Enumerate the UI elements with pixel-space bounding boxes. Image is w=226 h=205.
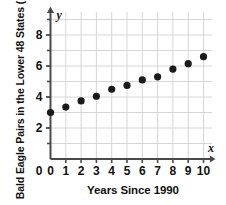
y-axis-arrowhead <box>47 7 54 14</box>
data-point <box>93 93 100 100</box>
data-point <box>62 103 69 110</box>
x-tick-label: 0 <box>47 164 54 178</box>
data-point <box>200 53 207 60</box>
data-point <box>154 73 161 80</box>
data-point <box>47 109 54 116</box>
x-tick-label: 2 <box>78 164 85 178</box>
x-tick-label: 1 <box>62 164 69 178</box>
x-tick-label: 3 <box>93 164 100 178</box>
data-point <box>185 60 192 67</box>
y-tick-label-origin: 0 <box>36 164 43 178</box>
data-point <box>123 82 130 89</box>
data-point <box>169 66 176 73</box>
x-axis-title: Years Since 1990 <box>40 184 226 196</box>
x-tick-label: 6 <box>139 164 146 178</box>
y-axis-variable-label: y <box>55 8 63 22</box>
x-tick-label: 10 <box>197 164 211 178</box>
x-axis-ticks: 012345678910 <box>47 159 210 178</box>
y-tick-label: 4 <box>36 90 43 104</box>
x-tick-label: 7 <box>154 164 161 178</box>
axes <box>47 7 216 163</box>
x-tick-label: 5 <box>124 164 131 178</box>
chart-container: Bald Eagle Pairs in the Lower 48 States … <box>0 0 226 205</box>
data-point <box>108 86 115 93</box>
y-tick-label: 8 <box>36 28 43 42</box>
scatter-plot: 01234567891002468yx <box>0 0 226 205</box>
data-point <box>139 76 146 83</box>
y-axis-ticks: 02468 <box>36 20 51 179</box>
x-axis-variable-label: x <box>207 141 214 155</box>
data-point <box>78 97 85 104</box>
x-axis-arrowhead <box>210 155 216 162</box>
y-tick-label: 6 <box>36 59 43 73</box>
x-tick-label: 9 <box>185 164 192 178</box>
grid-lines <box>51 12 212 159</box>
x-tick-label: 8 <box>170 164 177 178</box>
y-tick-label: 2 <box>36 121 43 135</box>
x-tick-label: 4 <box>108 164 115 178</box>
